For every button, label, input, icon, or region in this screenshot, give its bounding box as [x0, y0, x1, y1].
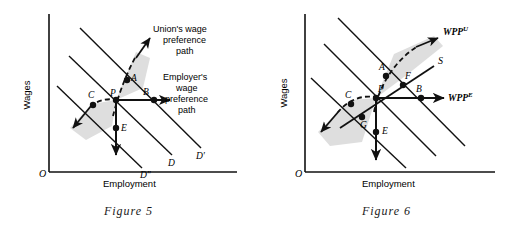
point-label-P: P — [109, 88, 116, 98]
annotation-union-line-3: path — [176, 46, 194, 56]
x-axis-label-figure-6: Employment — [362, 178, 415, 189]
point-label-C: C — [345, 90, 352, 100]
annotation-union-line-2: preference — [163, 35, 206, 45]
figure-5-plot: O Employment Wages D″ D D′ A P B C E Uni… — [0, 0, 257, 200]
shaded-wedge-lower — [318, 98, 376, 146]
figure-5-caption: Figure 5 — [0, 204, 257, 219]
annotation-wpp-u: WPPU — [443, 25, 469, 37]
annotation-union-line-1: Union's wage — [153, 24, 207, 34]
annotation-wpp-e-sup: E — [467, 91, 473, 99]
figure-6: O Employment Wages S A F P B C G E WPPU … — [258, 0, 515, 227]
y-axis-label-figure-6: Wages — [278, 78, 289, 107]
point-dot-C — [90, 102, 96, 108]
curve-label-d2: D″ — [139, 170, 152, 180]
annotation-employer-line-4: path — [178, 105, 196, 115]
point-label-F: F — [404, 71, 411, 81]
figure-pair-container: O Employment Wages D″ D D′ A P B C E Uni… — [0, 0, 515, 227]
point-dot-P — [373, 95, 379, 101]
point-label-E: E — [120, 123, 127, 133]
figure-6-caption: Figure 6 — [258, 204, 515, 219]
point-dot-B — [418, 95, 424, 101]
y-axis-label-figure-5: Wages — [21, 80, 32, 109]
origin-label-figure-5: O — [39, 168, 46, 179]
point-label-A: A — [130, 73, 137, 83]
annotation-wpp-e-base: WPP — [448, 93, 468, 103]
point-label-A: A — [378, 62, 385, 72]
point-dot-A — [124, 77, 130, 83]
annotation-wpp-e: WPPE — [448, 91, 473, 103]
figure-6-plot: O Employment Wages S A F P B C G E WPPU … — [258, 0, 515, 200]
point-label-E: E — [381, 126, 388, 136]
annotation-wpp-u-base: WPP — [443, 27, 463, 37]
point-dot-E — [373, 129, 379, 135]
annotation-employer-line-3: preference — [165, 94, 208, 104]
curve-label-d1: D′ — [195, 151, 206, 161]
demand-curve-d — [69, 56, 172, 155]
annotation-employer-line-2: wage — [175, 83, 198, 93]
demand-curve-d2 — [57, 86, 142, 168]
point-label-B: B — [143, 87, 149, 97]
point-label-C: C — [88, 90, 95, 100]
curve-label-d: D — [167, 158, 175, 168]
demand-curve-left — [311, 78, 406, 168]
point-label-P: P — [377, 84, 384, 94]
point-dot-C — [348, 101, 354, 107]
point-dot-A — [383, 73, 389, 79]
figure-5: O Employment Wages D″ D D′ A P B C E Uni… — [0, 0, 257, 227]
point-dot-F — [400, 82, 406, 88]
point-label-G: G — [360, 120, 367, 130]
annotation-employer-line-1: Employer's — [163, 72, 208, 82]
point-dot-B — [151, 97, 157, 103]
origin-label-figure-6: O — [295, 168, 302, 179]
point-label-B: B — [416, 84, 422, 94]
curve-label-s: S — [438, 55, 443, 66]
point-dot-E — [113, 125, 119, 131]
annotation-wpp-u-sup: U — [463, 25, 469, 33]
